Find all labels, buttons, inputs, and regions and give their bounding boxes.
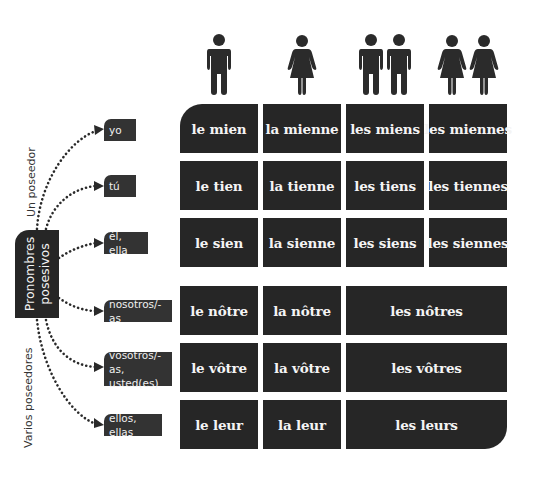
person-label-vosotros: vosotros/-as, usted(es): [104, 352, 172, 386]
pronoun-cell: le tien: [180, 161, 258, 210]
pronoun-cell: les miens: [346, 104, 424, 153]
pronoun-cell: le leur: [180, 400, 258, 449]
person-label-tu: tú: [104, 175, 136, 197]
pronoun-cell: les siens: [346, 218, 424, 267]
root-label-line1: Pronombres: [22, 237, 37, 312]
pronoun-cell: la nôtre: [263, 286, 341, 335]
pronoun-cell: les nôtres: [346, 286, 507, 335]
person-label-el-ella: él, ella: [104, 232, 148, 254]
pronoun-cell: la vôtre: [263, 343, 341, 392]
pronoun-cell: le mien: [180, 104, 258, 153]
pronoun-cell: la sienne: [263, 218, 341, 267]
person-label-yo: yo: [104, 119, 136, 141]
pronoun-cell: le nôtre: [180, 286, 258, 335]
pronoun-cell: la leur: [263, 400, 341, 449]
pronoun-cell: la tienne: [263, 161, 341, 210]
pronoun-cell: la mienne: [263, 104, 341, 153]
root-label-line2: posesivos: [37, 237, 52, 312]
possessive-pronouns-root: Pronombres posesivos: [15, 230, 59, 318]
pronoun-cell: les vôtres: [346, 343, 507, 392]
group-label-singular: Un poseedor: [25, 147, 38, 217]
pronoun-cell: les leurs: [346, 400, 507, 449]
pronoun-cell: le vôtre: [180, 343, 258, 392]
pronoun-cell: les tiens: [346, 161, 424, 210]
group-label-plural: Varios poseedores: [22, 348, 35, 448]
pronoun-cell: les miennes: [429, 104, 507, 153]
person-label-nosotros: nosotros/-as: [104, 300, 172, 322]
person-label-ellos: ellos, ellas: [104, 414, 162, 436]
pronoun-cell: les tiennes: [429, 161, 507, 210]
pronoun-cell: les siennes: [429, 218, 507, 267]
pronoun-cell: le sien: [180, 218, 258, 267]
